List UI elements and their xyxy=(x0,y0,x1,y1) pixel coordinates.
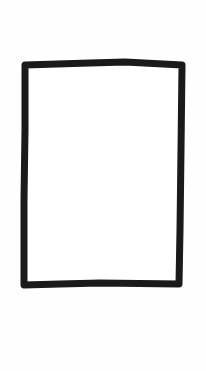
hand-drawn-rectangle xyxy=(24,62,182,285)
sketch-svg xyxy=(0,0,206,371)
drawing-canvas xyxy=(0,0,206,371)
